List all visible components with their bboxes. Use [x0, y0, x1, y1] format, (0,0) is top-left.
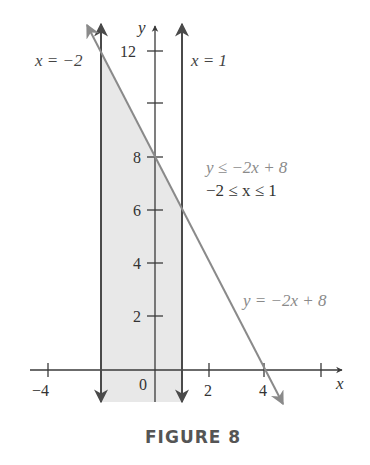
inequality-label-2: −2 ≤ x ≤ 1: [206, 181, 277, 200]
x-tick-label-2: 2: [204, 382, 212, 399]
line-label-x-neg2: x = −2: [34, 51, 83, 70]
y-tick-label-12: 12: [120, 43, 136, 60]
y-tick-label-8: 8: [133, 149, 141, 166]
figure-caption: FIGURE 8: [145, 427, 241, 447]
y-tick-label-2: 2: [133, 308, 141, 325]
y-tick-label-4: 4: [133, 255, 141, 272]
x-tick-label-neg4: −4: [32, 382, 49, 399]
y-axis-label: y: [136, 18, 146, 37]
figure-8-graph: y x 0 −4 2 4 12 8 6 4 2 x = −2 x = 1 y ≤…: [0, 0, 370, 465]
inequality-label-1: y ≤ −2x + 8: [204, 158, 288, 177]
x-axis-label: x: [335, 374, 344, 393]
y-tick-label-6: 6: [133, 202, 141, 219]
x-tick-label-4: 4: [259, 382, 267, 399]
line-label-x-1: x = 1: [190, 51, 227, 70]
origin-label: 0: [139, 376, 147, 393]
shaded-region: [101, 51, 182, 402]
oblique-line-label: y = −2x + 8: [241, 291, 327, 310]
